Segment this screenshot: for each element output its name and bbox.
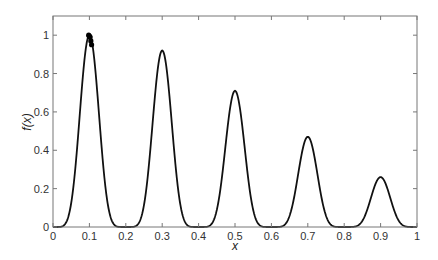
y-tick-label: 0.4: [34, 144, 49, 156]
function-curve: [53, 35, 417, 227]
y-tick-label: 0: [43, 221, 49, 233]
x-tick-label: 0.1: [82, 230, 97, 242]
plot-frame: [53, 16, 417, 227]
x-tick-label: 0.7: [300, 230, 315, 242]
x-tick-label: 0.3: [155, 230, 170, 242]
y-axis-ticks: 00.20.40.60.81: [34, 29, 417, 233]
y-tick-label: 0.8: [34, 68, 49, 80]
x-tick-label: 0.2: [118, 230, 133, 242]
y-axis-label: f(x): [20, 113, 34, 130]
curve-line: [53, 35, 417, 227]
x-axis-label: x: [231, 239, 239, 253]
x-tick-label: 0.8: [337, 230, 352, 242]
x-tick-label: 1: [414, 230, 420, 242]
y-tick-label: 1: [43, 29, 49, 41]
x-tick-label: 0.4: [191, 230, 206, 242]
x-tick-label: 0.6: [264, 230, 279, 242]
y-tick-label: 0.2: [34, 183, 49, 195]
y-tick-label: 0.6: [34, 106, 49, 118]
x-tick-label: 0.9: [373, 230, 388, 242]
chart: 00.10.20.30.40.50.60.70.80.91 00.20.40.6…: [0, 0, 438, 260]
population-point: [89, 42, 94, 47]
x-axis-ticks: 00.10.20.30.40.50.60.70.80.91: [50, 16, 420, 242]
x-tick-label: 0: [50, 230, 56, 242]
